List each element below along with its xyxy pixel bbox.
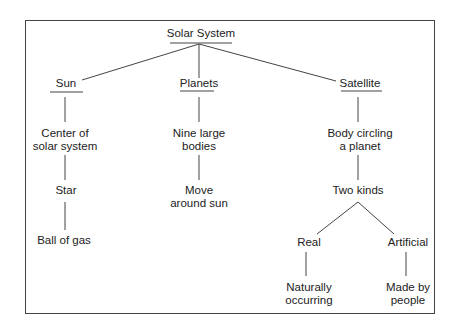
text-line: around sun: [170, 197, 228, 210]
text-line: Center of: [33, 127, 98, 140]
text-line: a planet: [327, 140, 392, 153]
node-satellite: Satellite: [340, 77, 381, 90]
text-line: Body circling: [327, 127, 392, 140]
node-nine-large-bodies: Nine large bodies: [173, 127, 225, 153]
text-line: solar system: [33, 140, 98, 153]
text-line: people: [386, 294, 430, 307]
text-line: Naturally: [285, 281, 332, 294]
node-two-kinds: Two kinds: [332, 184, 383, 197]
twokinds-to-artificial: [358, 202, 394, 234]
root-to-sun: [82, 44, 199, 80]
node-real: Real: [297, 236, 321, 249]
node-solar-system: Solar System: [167, 27, 235, 40]
text-line: Nine large: [173, 127, 225, 140]
text-line: Made by: [386, 281, 430, 294]
twokinds-to-real: [317, 202, 358, 234]
text-line: occurring: [285, 294, 332, 307]
node-made-by-people: Made by people: [386, 281, 430, 307]
node-naturally-occurring: Naturally occurring: [285, 281, 332, 307]
node-center-of-solar-system: Center of solar system: [33, 127, 98, 153]
node-artificial: Artificial: [388, 236, 428, 249]
node-star: Star: [55, 184, 76, 197]
root-to-satellite: [199, 44, 336, 81]
node-ball-of-gas: Ball of gas: [37, 234, 91, 247]
node-body-circling-a-planet: Body circling a planet: [327, 127, 392, 153]
node-planets: Planets: [180, 77, 218, 90]
text-line: bodies: [173, 140, 225, 153]
text-line: Move: [170, 184, 228, 197]
node-sun: Sun: [56, 77, 76, 90]
node-move-around-sun: Move around sun: [170, 184, 228, 210]
